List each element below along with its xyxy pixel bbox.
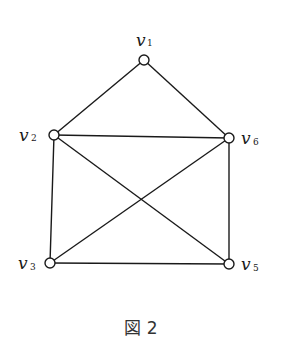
vertex-v1	[139, 55, 149, 65]
vertex-v2	[49, 130, 59, 140]
vertex-label-v6: v	[241, 128, 251, 148]
vertex-v5	[224, 259, 234, 269]
vertex-subscript-v2: 2	[31, 133, 37, 143]
edge-v2-v3	[50, 135, 54, 263]
vertex-label-v1: v	[136, 30, 146, 50]
vertex-label-v2: v	[19, 125, 29, 145]
vertex-v3	[45, 258, 55, 268]
vertex-label-v5: v	[241, 254, 251, 274]
vertex-v6	[224, 133, 234, 143]
edge-v1-v2	[54, 60, 144, 135]
figure-caption: 図 2	[0, 314, 282, 339]
vertex-label-v3: v	[18, 253, 28, 273]
edge-v1-v6	[144, 60, 229, 138]
vertex-subscript-v1: 1	[147, 38, 153, 48]
vertex-subscript-v5: 5	[253, 263, 259, 273]
vertex-subscript-v6: 6	[253, 137, 259, 147]
vertex-subscript-v3: 3	[30, 262, 36, 272]
graph-edges	[50, 60, 229, 264]
edge-v2-v6	[54, 135, 229, 138]
graph-nodes	[45, 55, 234, 269]
edge-v3-v5	[50, 263, 229, 264]
graph-figure: v1v2v3v5v6	[0, 0, 282, 349]
